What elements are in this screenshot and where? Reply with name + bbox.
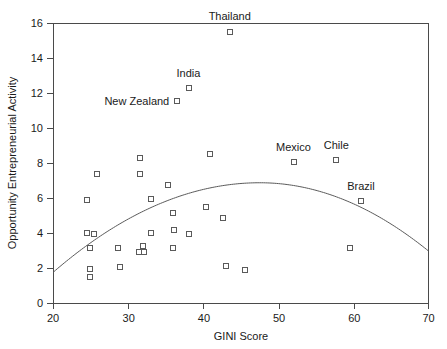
data-point-mexico [291, 159, 296, 164]
data-point [221, 215, 226, 220]
data-point-new-zealand [175, 99, 180, 104]
data-point [140, 243, 145, 248]
x-tick-label-50: 50 [273, 312, 285, 324]
x-tick-label-60: 60 [348, 312, 360, 324]
data-point [116, 246, 121, 251]
data-point [85, 198, 90, 203]
y-tick-label-10: 10 [31, 122, 43, 134]
point-label-brazil: Brazil [347, 180, 375, 192]
data-point [137, 249, 142, 254]
y-tick-label-12: 12 [31, 87, 43, 99]
data-markers [84, 30, 364, 280]
x-tick-label-70: 70 [422, 312, 434, 324]
y-tick-label-0: 0 [37, 297, 43, 309]
data-point [170, 211, 175, 216]
x-tick-label-20: 20 [47, 312, 59, 324]
y-axis-ticks: 0 2 4 6 8 10 12 14 16 [31, 17, 53, 309]
data-point [137, 156, 142, 161]
data-point [171, 228, 176, 233]
scatter-plot-svg: 0 2 4 6 8 10 12 14 16 20 30 40 [0, 0, 447, 349]
data-point-brazil [359, 199, 364, 204]
y-tick-label-4: 4 [37, 227, 43, 239]
x-axis-title: GINI Score [214, 330, 268, 342]
x-axis-ticks: 20 30 40 50 60 70 [47, 303, 435, 324]
point-label-india: India [177, 67, 202, 79]
data-point-india [186, 86, 191, 91]
data-point [137, 172, 142, 177]
data-point [149, 197, 154, 202]
data-point [207, 151, 212, 156]
data-point [242, 268, 247, 273]
data-point [95, 172, 100, 177]
y-tick-label-14: 14 [31, 52, 43, 64]
data-point [84, 230, 89, 235]
y-tick-label-16: 16 [31, 17, 43, 29]
point-label-chile: Chile [324, 139, 349, 151]
x-tick-label-30: 30 [123, 312, 135, 324]
y-tick-label-6: 6 [37, 192, 43, 204]
point-label-thailand: Thailand [209, 10, 251, 22]
data-point [142, 249, 147, 254]
data-point [92, 231, 97, 236]
data-point [88, 245, 93, 250]
data-point [118, 264, 123, 269]
data-point [224, 263, 229, 268]
y-axis-title: Opportunity Entrepreneurial Activity [6, 76, 18, 249]
point-label-new-zealand: New Zealand [104, 95, 169, 107]
data-point [203, 205, 208, 210]
x-tick-label-40: 40 [198, 312, 210, 324]
data-point [170, 245, 175, 250]
data-point-labels: ThailandIndiaNew ZealandMexicoChileBrazi… [104, 10, 374, 192]
data-point-chile [334, 158, 339, 163]
y-tick-label-8: 8 [37, 157, 43, 169]
chart-figure: 0 2 4 6 8 10 12 14 16 20 30 40 [0, 0, 447, 349]
data-point [88, 275, 93, 280]
data-point-thailand [227, 30, 232, 35]
plot-axes [53, 23, 429, 304]
point-label-mexico: Mexico [276, 141, 311, 153]
data-point [149, 230, 154, 235]
y-tick-label-2: 2 [37, 262, 43, 274]
data-point [87, 266, 92, 271]
data-point [186, 231, 191, 236]
best-fit-curve [54, 183, 429, 272]
data-point [347, 246, 352, 251]
data-point [166, 183, 171, 188]
